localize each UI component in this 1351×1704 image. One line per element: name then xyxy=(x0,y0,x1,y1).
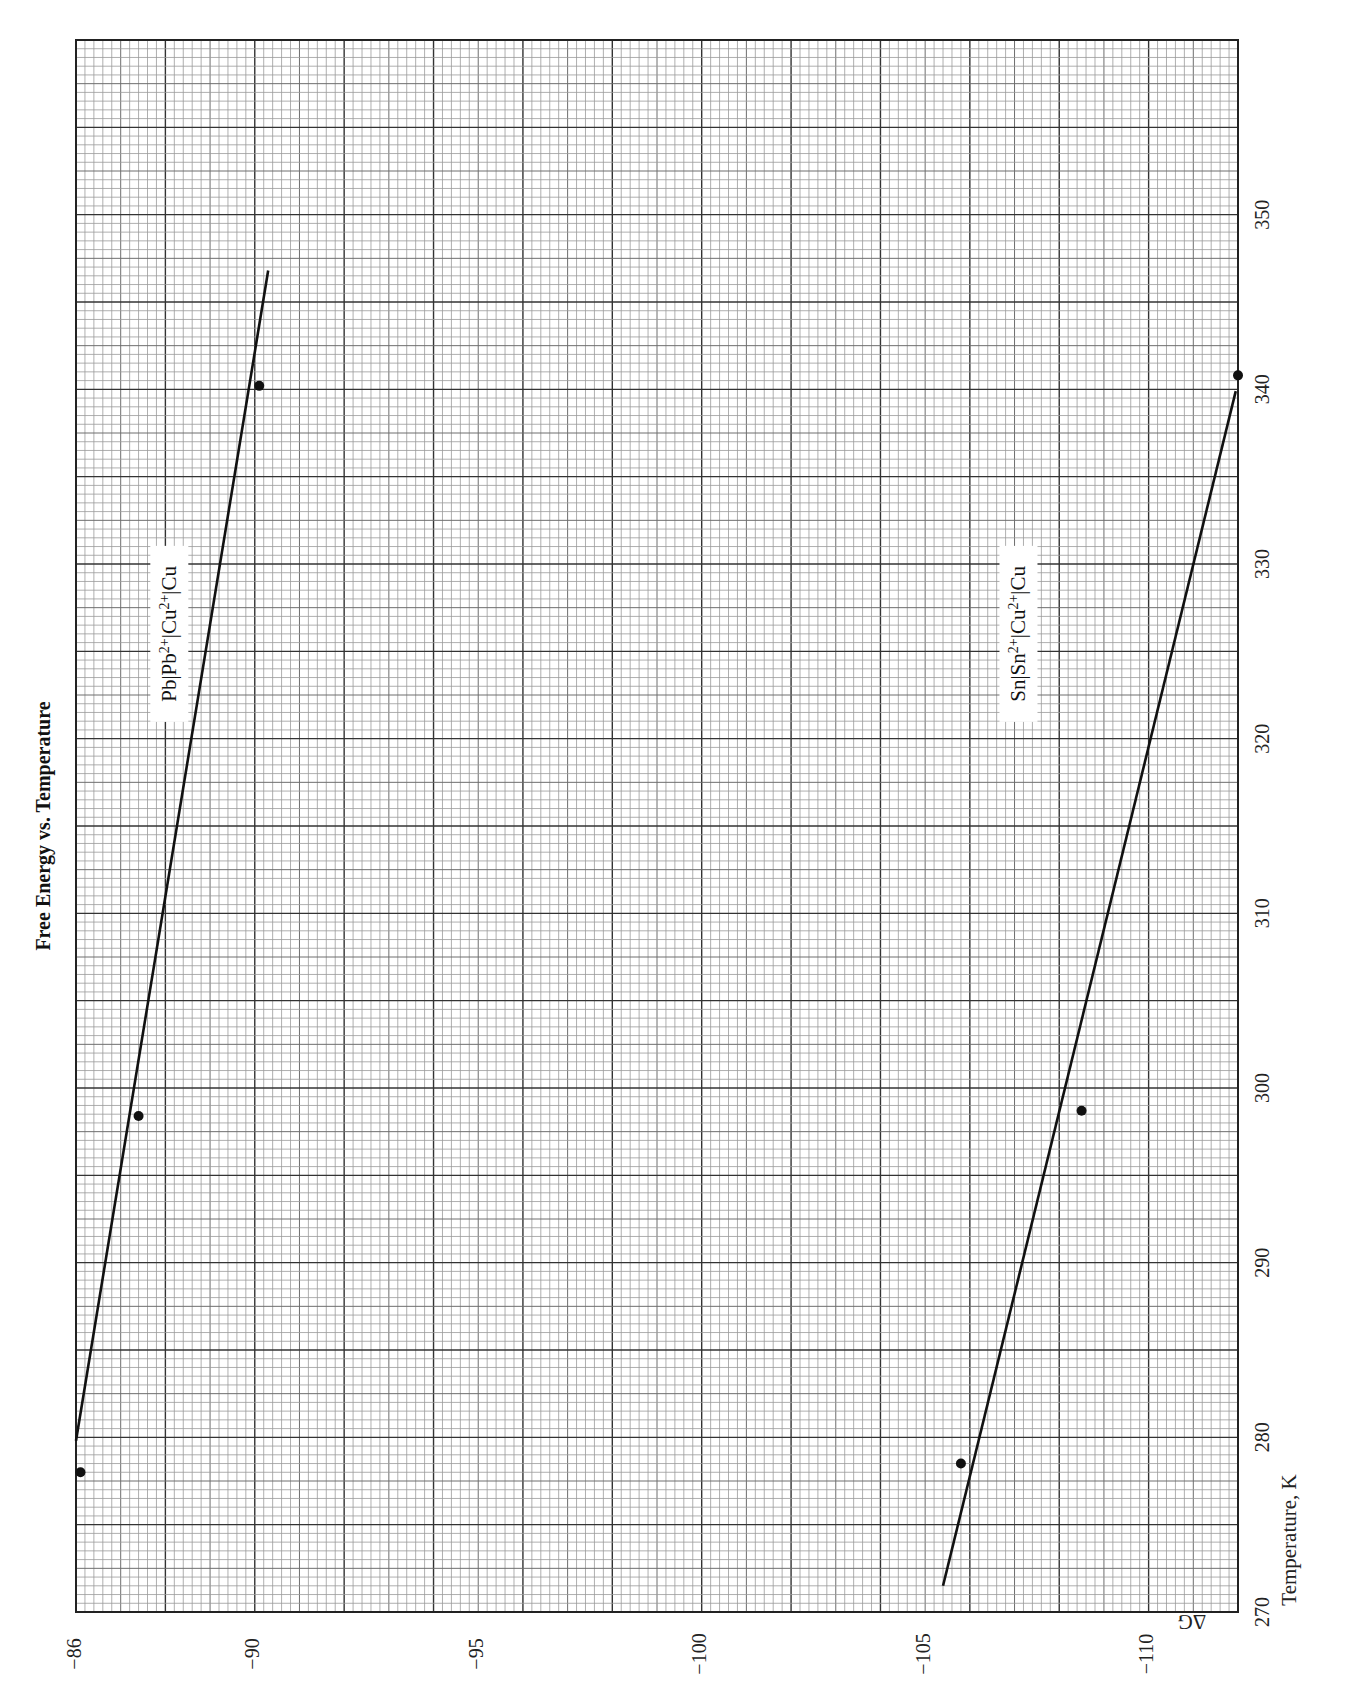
data-point xyxy=(956,1459,966,1469)
x-axis-title: Temperature, K xyxy=(1277,1474,1301,1605)
series-label-sn: Sn|Sn2+|Cu2+|Cu xyxy=(999,546,1037,722)
chart-title: Free Energy vs. Temperature xyxy=(32,701,55,950)
series-label-pb: Pb|Pb2+|Cu2+|Cu xyxy=(150,546,188,722)
data-point xyxy=(134,1111,144,1121)
y-tick-label: −86 xyxy=(63,1638,85,1669)
y-tick-label: −100 xyxy=(688,1633,710,1674)
data-point xyxy=(254,381,264,391)
y-tick-label: −95 xyxy=(465,1638,487,1669)
y-tick-label: −105 xyxy=(912,1633,934,1674)
x-tick-label: 320 xyxy=(1251,724,1273,754)
x-tick-label: 300 xyxy=(1251,1073,1273,1103)
x-tick-label: 270 xyxy=(1251,1597,1273,1627)
data-point xyxy=(1233,370,1243,380)
graph-paper-grid xyxy=(76,40,1238,1612)
fit-line-sn xyxy=(943,391,1236,1586)
series-label-text: Sn|Sn2+|Cu2+|Cu xyxy=(1006,565,1031,701)
x-tick-label: 330 xyxy=(1251,549,1273,579)
y-axis-title: ΔG xyxy=(1178,1610,1207,1634)
x-tick-label: 310 xyxy=(1251,898,1273,928)
fit-line-pb xyxy=(76,271,268,1441)
x-tick-label: 290 xyxy=(1251,1248,1273,1278)
data-point xyxy=(75,1467,85,1477)
free-energy-chart: Pb|Pb2+|Cu2+|CuSn|Sn2+|Cu2+|Cu 270280290… xyxy=(0,0,1351,1704)
x-tick-label: 280 xyxy=(1251,1422,1273,1452)
series-label-text: Pb|Pb2+|Cu2+|Cu xyxy=(157,565,182,701)
y-tick-label: −110 xyxy=(1135,1634,1157,1675)
data-point xyxy=(1077,1106,1087,1116)
y-tick-label: −90 xyxy=(241,1638,263,1669)
x-tick-label: 340 xyxy=(1251,374,1273,404)
x-tick-label: 350 xyxy=(1251,200,1273,230)
